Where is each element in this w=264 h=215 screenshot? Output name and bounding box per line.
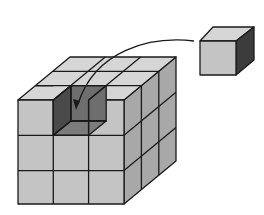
large-cube: [18, 57, 176, 204]
small-cube-front-face: [200, 41, 236, 75]
cube-diagram: [0, 0, 264, 215]
diagram-stage: [0, 0, 264, 215]
small-cube: [200, 27, 254, 75]
